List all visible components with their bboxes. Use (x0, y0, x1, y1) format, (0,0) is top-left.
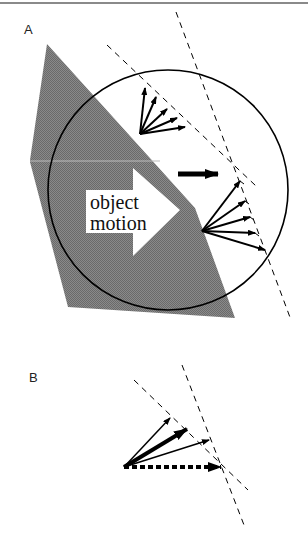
panel-b-label: B (29, 370, 38, 385)
object-motion-label-line1: object (90, 191, 139, 214)
diagram-canvas: A object motion (0, 0, 308, 533)
object-motion-label-line2: motion (90, 212, 147, 234)
b-constraint-line-1 (134, 380, 248, 490)
moving-object-shape (30, 44, 235, 318)
panel-b: B (29, 365, 248, 525)
b-velocity-arrows (124, 418, 221, 467)
lower-velocity-fan (202, 181, 265, 250)
upper-velocity-fan (140, 88, 185, 134)
panel-a: A object motion (24, 12, 291, 320)
panel-a-label: A (24, 22, 33, 37)
